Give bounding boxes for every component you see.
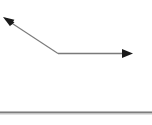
diagram-canvas	[0, 0, 152, 125]
geometry-diagram	[0, 0, 152, 125]
diagram-background	[0, 0, 152, 125]
